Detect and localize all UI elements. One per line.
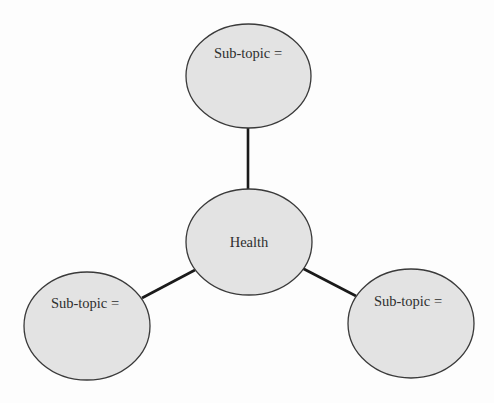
subtopic-bottom-left-label: Sub-topic = [51,295,119,311]
subtopic-node-bottom-left: Sub-topic = [24,272,150,380]
subtopic-bottom-left-ellipse [24,272,150,380]
subtopic-bottom-right-ellipse [348,269,474,378]
mind-map-canvas: Sub-topic = Health Sub-topic = Sub-topic… [0,0,494,403]
subtopic-bottom-right-label: Sub-topic = [374,293,442,309]
connector-center-to-bottom-left [142,270,195,298]
connector-center-to-bottom-right [302,268,356,296]
center-label: Health [230,234,269,250]
subtopic-node-bottom-right: Sub-topic = [348,269,474,378]
subtopic-node-top: Sub-topic = [186,24,311,128]
center-node: Health [186,189,312,295]
mind-map-svg: Sub-topic = Health Sub-topic = Sub-topic… [0,0,494,403]
subtopic-top-ellipse [186,24,311,128]
subtopic-top-label: Sub-topic = [214,45,282,61]
